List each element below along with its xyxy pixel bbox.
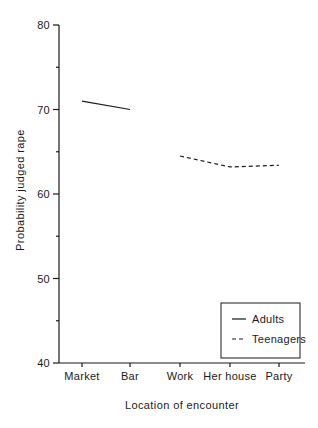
x-category-label: Market — [64, 370, 99, 382]
y-tick-label: 50 — [37, 273, 50, 285]
y-axis-title: Probability judged rape — [14, 84, 26, 296]
x-category-label: Her house — [203, 370, 256, 382]
x-category-label: Work — [167, 370, 194, 382]
y-tick-label: 60 — [37, 188, 50, 200]
chart-figure: 4050607080MarketBarWorkHer housePartyAdu… — [0, 0, 318, 428]
series-line-teenagers — [180, 156, 279, 167]
legend-entry-label: Teenagers — [252, 333, 306, 345]
y-tick-label: 70 — [37, 104, 50, 116]
legend-box — [221, 303, 300, 358]
legend-entry-label: Adults — [252, 313, 285, 325]
y-tick-label: 40 — [37, 357, 50, 369]
y-tick-label: 80 — [37, 19, 50, 31]
series-line-adults — [82, 101, 130, 109]
chart-canvas: 4050607080MarketBarWorkHer housePartyAdu… — [0, 0, 318, 428]
x-category-label: Bar — [121, 370, 139, 382]
x-axis-title: Location of encounter — [59, 399, 305, 411]
x-category-label: Party — [265, 370, 292, 382]
